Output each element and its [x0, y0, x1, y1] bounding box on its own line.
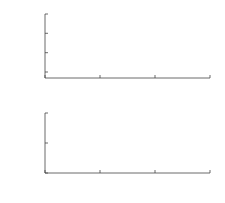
- bottom-x-ticks: [45, 170, 210, 173]
- figure: [0, 0, 225, 203]
- top-y-ticks: [45, 14, 48, 72]
- bottom-y-ticks: [45, 113, 48, 173]
- bottom-plot: [45, 113, 210, 173]
- top-x-ticks: [45, 75, 210, 78]
- top-plot: [45, 14, 210, 78]
